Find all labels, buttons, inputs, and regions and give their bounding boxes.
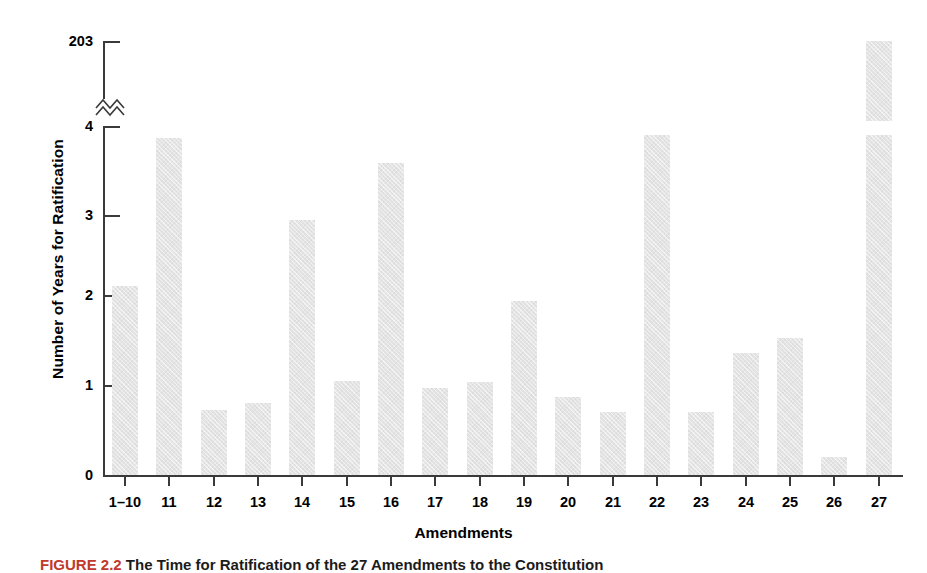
x-tick-13 [257, 477, 259, 486]
bar-22[interactable] [644, 135, 670, 475]
bar-27-break-icon [866, 121, 892, 135]
bar-17[interactable] [422, 388, 448, 475]
x-tick-22 [656, 477, 658, 486]
figure-caption-text: The Time for Ratification of the 27 Amen… [126, 556, 604, 573]
x-tick-19 [523, 477, 525, 486]
y-tick-label-3: 3 [33, 208, 93, 223]
bar-13[interactable] [245, 403, 271, 475]
y-tick-label-2: 2 [33, 288, 93, 303]
x-tick-14 [301, 477, 303, 486]
y-tick-label-203: 203 [33, 34, 93, 49]
y-tick-label-4: 4 [33, 119, 93, 134]
x-tick-21 [612, 477, 614, 486]
x-label-27: 27 [839, 495, 919, 510]
y-tick-4 [105, 126, 120, 128]
y-axis-spine-lower [103, 126, 105, 477]
bar-27[interactable] [866, 41, 892, 475]
bar-24[interactable] [733, 353, 759, 475]
bar-25[interactable] [777, 338, 803, 475]
plot-area: 203 4 3 2 1 0 [103, 41, 903, 477]
x-tick-11 [168, 477, 170, 486]
x-tick-25 [789, 477, 791, 486]
y-tick-3 [105, 215, 120, 217]
x-tick-27 [878, 477, 880, 486]
bar-12[interactable] [201, 410, 227, 475]
y-tick-203 [105, 41, 120, 43]
x-axis-title: Amendments [0, 524, 927, 542]
x-tick-24 [745, 477, 747, 486]
bar-15[interactable] [334, 381, 360, 475]
bar-23[interactable] [688, 412, 714, 475]
x-tick-23 [700, 477, 702, 486]
x-tick-12 [213, 477, 215, 486]
x-axis-spine [103, 475, 903, 477]
bar-19[interactable] [511, 301, 537, 475]
x-tick-17 [434, 477, 436, 486]
y-axis-break-icon [94, 90, 134, 120]
y-tick-label-1: 1 [33, 378, 93, 393]
bar-11[interactable] [156, 138, 182, 475]
y-tick-label-0: 0 [33, 468, 93, 483]
bar-1-10[interactable] [112, 286, 138, 475]
bar-16[interactable] [378, 163, 404, 475]
x-tick-18 [479, 477, 481, 486]
x-tick-26 [833, 477, 835, 486]
x-tick-16 [390, 477, 392, 486]
x-tick-15 [346, 477, 348, 486]
figure-number: FIGURE 2.2 [40, 556, 122, 573]
bar-20[interactable] [555, 397, 581, 475]
x-tick-1-10 [124, 477, 126, 486]
bar-21[interactable] [600, 412, 626, 475]
x-tick-20 [567, 477, 569, 486]
y-tick-0 [105, 475, 120, 477]
figure-caption: FIGURE 2.2 The Time for Ratification of … [40, 556, 900, 573]
bar-26[interactable] [821, 457, 847, 475]
bar-18[interactable] [467, 382, 493, 475]
bar-14[interactable] [289, 220, 315, 475]
